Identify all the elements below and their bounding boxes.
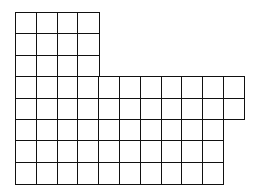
grid-cell: [119, 140, 141, 163]
grid-cell: [202, 162, 224, 185]
grid-diagram: [0, 0, 258, 192]
grid-cell: [36, 119, 58, 142]
grid-cell: [57, 98, 79, 121]
grid-cell: [98, 98, 120, 121]
grid-cell: [98, 162, 120, 185]
grid-cell: [161, 140, 183, 163]
grid-cell: [119, 119, 141, 142]
grid-cell: [15, 162, 37, 185]
grid-cell: [36, 76, 58, 99]
grid-cell: [15, 76, 37, 99]
grid-cell: [140, 140, 162, 163]
grid-cell: [181, 119, 203, 142]
grid-cell: [98, 140, 120, 163]
grid-cell: [140, 162, 162, 185]
grid-cell: [223, 76, 245, 99]
grid-cell: [119, 98, 141, 121]
grid-cell: [181, 98, 203, 121]
grid-cell: [77, 140, 99, 163]
grid-cell: [161, 76, 183, 99]
grid-cell: [15, 119, 37, 142]
grid-cell: [77, 119, 99, 142]
grid-cell: [202, 119, 224, 142]
grid-cell: [77, 98, 99, 121]
grid-cell: [202, 140, 224, 163]
grid-cell: [119, 162, 141, 185]
grid-cell: [15, 33, 37, 56]
grid-cell: [57, 140, 79, 163]
grid-cell: [181, 140, 203, 163]
grid-cell: [15, 140, 37, 163]
grid-cell: [98, 119, 120, 142]
grid-cell: [202, 76, 224, 99]
grid-cell: [140, 98, 162, 121]
grid-cell: [57, 119, 79, 142]
grid-cell: [57, 55, 79, 78]
grid-cell: [98, 76, 120, 99]
grid-cell: [36, 140, 58, 163]
grid-cell: [36, 12, 58, 35]
grid-cell: [15, 55, 37, 78]
grid-cell: [57, 162, 79, 185]
grid-cell: [140, 76, 162, 99]
grid-cell: [161, 98, 183, 121]
grid-cell: [77, 76, 99, 99]
grid-cell: [57, 76, 79, 99]
grid-cell: [161, 162, 183, 185]
grid-cell: [15, 98, 37, 121]
grid-cell: [36, 162, 58, 185]
grid-cell: [119, 76, 141, 99]
grid-cell: [15, 12, 37, 35]
grid-cell: [161, 119, 183, 142]
grid-cell: [77, 162, 99, 185]
grid-cell: [77, 12, 99, 35]
grid-cell: [57, 33, 79, 56]
grid-cell: [57, 12, 79, 35]
grid-cell: [181, 162, 203, 185]
grid-cell: [223, 98, 245, 121]
grid-cell: [77, 55, 99, 78]
grid-cell: [77, 33, 99, 56]
grid-cell: [202, 98, 224, 121]
grid-cell: [36, 98, 58, 121]
grid-cell: [140, 119, 162, 142]
grid-cell: [36, 55, 58, 78]
grid-cell: [181, 76, 203, 99]
grid-cell: [36, 33, 58, 56]
